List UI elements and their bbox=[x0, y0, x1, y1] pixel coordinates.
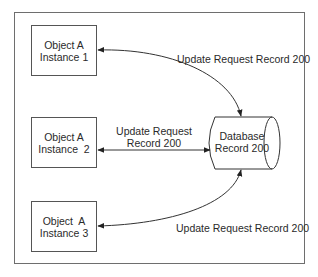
object-label-line1: Object A bbox=[43, 215, 86, 227]
object-label-line2: Instance 3 bbox=[40, 227, 88, 239]
object-label-line2: Instance 1 bbox=[40, 51, 88, 63]
edge-label-bottom: Update Request Record 200 bbox=[176, 222, 309, 234]
edge-label-middle-line1: Update Request bbox=[108, 125, 200, 137]
object-label-line1: Object A bbox=[44, 39, 84, 51]
database-label: Database Record 200 bbox=[212, 130, 272, 154]
object-a-instance-1-box: Object A Instance 1 bbox=[31, 25, 97, 76]
edge-label-middle: Update Request Record 200 bbox=[108, 125, 200, 149]
object-label-line2: Instance 2 bbox=[38, 143, 89, 155]
connector-instance3-database bbox=[98, 170, 241, 226]
object-label-line1: Object A bbox=[44, 131, 84, 143]
database-label-line2: Record 200 bbox=[212, 142, 272, 154]
edge-label-top: Update Request Record 200 bbox=[177, 53, 310, 65]
object-a-instance-3-box: Object A Instance 3 bbox=[31, 201, 97, 252]
database-label-line1: Database bbox=[212, 130, 272, 142]
edge-label-middle-line2: Record 200 bbox=[108, 137, 200, 149]
object-a-instance-2-box: Object A Instance 2 bbox=[31, 117, 97, 168]
